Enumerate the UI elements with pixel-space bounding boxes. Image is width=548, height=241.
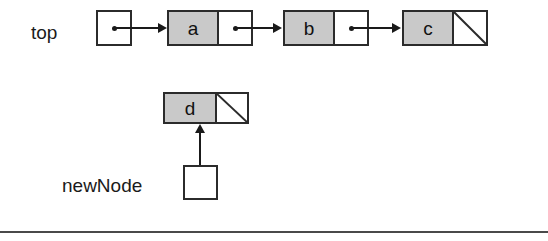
arrow-b-to-c [351,27,394,29]
linked-list-diagram: top a b c d [0,0,548,241]
arrow-top-to-a [116,27,160,29]
newnode-pointer-box [183,165,218,200]
node-d-next-null-cell [217,94,247,122]
arrowhead-a-to-b-icon [273,23,282,33]
arrowhead-b-to-c-icon [392,23,401,33]
node-c-value: c [404,12,454,44]
top-label: top [31,23,57,42]
null-slash-icon [454,12,486,44]
node-a-value: a [169,12,219,44]
node-c-next-null-cell [454,12,486,44]
newnode-label: newNode [62,176,142,195]
list-node-c: c [402,10,488,46]
null-slash-icon [217,94,247,122]
new-node-d: d [163,92,249,124]
arrow-a-to-b [235,27,275,29]
arrowhead-top-to-a-icon [158,23,167,33]
footer-divider [0,231,548,233]
node-b-value: b [285,12,335,44]
node-d-value: d [165,94,217,122]
arrowhead-newnode-to-d-icon [195,124,205,133]
